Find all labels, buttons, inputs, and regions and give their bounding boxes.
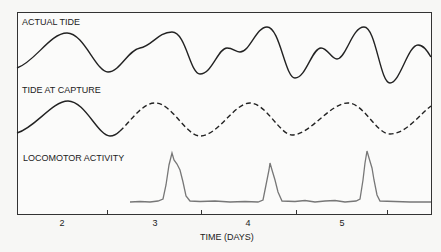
panel-label-actual-tide: ACTUAL TIDE [22, 17, 80, 27]
x-tick-label-2: 2 [59, 218, 64, 228]
plot-frame [18, 13, 432, 215]
x-tick-label-4: 4 [245, 218, 250, 228]
x-tick-label-5: 5 [339, 218, 344, 228]
x-tick-label-3: 3 [152, 218, 157, 228]
panel-label-tide-at-capture: TIDE AT CAPTURE [22, 85, 101, 95]
panel-label-locomotor-activity: LOCOMOTOR ACTIVITY [23, 153, 124, 163]
tide-activity-chart: 2 3 4 5 TIME (DAYS) ACTUAL TIDE TIDE AT … [0, 0, 441, 252]
x-axis-title: TIME (DAYS) [200, 232, 254, 242]
